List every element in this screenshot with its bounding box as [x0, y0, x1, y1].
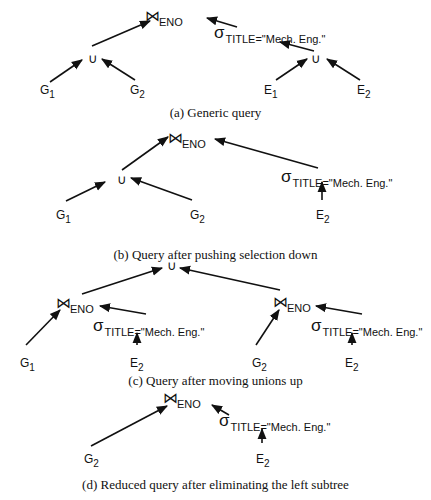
fragment-index: 2 — [93, 458, 99, 469]
relation-fragment: E2 — [345, 357, 359, 373]
join-attribute: ENO — [287, 302, 311, 314]
selection-operator: σTITLE="Mech. Eng." — [219, 412, 330, 429]
fragment-index: 1 — [29, 362, 35, 373]
fragment-name: G — [190, 208, 199, 222]
edge-arrow — [66, 182, 105, 201]
sigma-icon: σ — [219, 411, 230, 430]
edge-arrow — [316, 306, 362, 314]
fragment-name: E — [264, 83, 272, 97]
relation-fragment: G1 — [56, 209, 71, 225]
fragment-index: 2 — [324, 214, 330, 225]
fragment-name: E — [316, 208, 324, 222]
selection-condition: TITLE="Mech. Eng." — [323, 326, 423, 338]
fragment-name: G — [56, 208, 65, 222]
bowtie-join-icon: ⋈ — [168, 129, 182, 146]
relation-fragment: G2 — [190, 209, 205, 225]
join-attribute: ENO — [70, 303, 94, 315]
edge-arrow — [122, 137, 168, 170]
bowtie-join-icon: ⋈ — [273, 293, 287, 310]
selection-condition: TITLE="Mech. Eng." — [231, 421, 331, 433]
panel-caption: (b) Query after pushing selection down — [0, 247, 431, 263]
relation-fragment: E2 — [256, 453, 270, 469]
edge-arrow — [92, 21, 150, 46]
edge-arrow — [327, 59, 360, 80]
fragment-index: 2 — [199, 214, 205, 225]
relation-fragment: E1 — [264, 84, 278, 100]
fragment-name: E — [357, 83, 365, 97]
relation-fragment: G1 — [40, 84, 55, 100]
fragment-index: 2 — [264, 458, 270, 469]
fragment-name: E — [345, 356, 353, 370]
edge-arrow — [256, 310, 279, 345]
bowtie-join-icon: ⋈ — [145, 7, 159, 24]
bowtie-join-icon: ⋈ — [56, 294, 70, 311]
fragment-index: 1 — [49, 89, 55, 100]
fragment-index: 2 — [139, 89, 145, 100]
relation-fragment: G1 — [20, 357, 35, 373]
relation-fragment: G2 — [84, 453, 99, 469]
sigma-icon: σ — [281, 167, 292, 186]
join-operator: ⋈ENO — [56, 295, 94, 310]
edge-arrow — [50, 60, 82, 82]
join-operator: ⋈ENO — [168, 130, 206, 145]
union-operator: ∪ — [311, 52, 321, 65]
fragment-index: 1 — [65, 214, 71, 225]
join-attribute: ENO — [182, 138, 206, 150]
fragment-name: G — [252, 356, 261, 370]
edge-arrow — [215, 139, 318, 168]
selection-operator: σTITLE="Mech. Eng." — [281, 168, 392, 185]
bowtie-join-icon: ⋈ — [163, 389, 177, 406]
selection-condition: TITLE="Mech. Eng." — [105, 326, 205, 338]
sigma-icon: σ — [311, 316, 322, 335]
union-operator: ∪ — [167, 259, 177, 272]
fragment-name: G — [40, 83, 49, 97]
fragment-name: G — [20, 356, 29, 370]
fragment-index: 2 — [353, 362, 359, 373]
relation-fragment: E2 — [130, 357, 144, 373]
fragment-name: E — [130, 356, 138, 370]
panel-caption: (a) Generic query — [0, 105, 431, 121]
edge-arrow — [82, 268, 162, 294]
join-operator: ⋈ENO — [163, 390, 201, 405]
selection-operator: σTITLE="Mech. Eng." — [93, 317, 204, 334]
edge-arrow — [91, 406, 167, 446]
query-tree-figure: ⋈ENO∪∪σTITLE="Mech. Eng."G1G2E1E2(a) Gen… — [0, 0, 431, 500]
edge-arrow — [26, 310, 60, 345]
sigma-icon: σ — [93, 316, 104, 335]
fragment-name: G — [84, 452, 93, 466]
edge-arrow — [180, 268, 280, 290]
fragment-index: 2 — [365, 89, 371, 100]
edge-arrow — [100, 306, 146, 314]
join-operator: ⋈ENO — [145, 8, 183, 23]
sigma-icon: σ — [214, 23, 225, 42]
edge-arrow — [102, 59, 135, 80]
panel-caption: (d) Reduced query after eliminating the … — [0, 477, 431, 493]
union-operator: ∪ — [88, 52, 98, 65]
edge-arrow — [276, 59, 307, 80]
join-attribute: ENO — [177, 398, 201, 410]
relation-fragment: G2 — [252, 357, 267, 373]
join-operator: ⋈ENO — [273, 294, 311, 309]
panel-caption: (c) Query after moving unions up — [0, 373, 431, 389]
join-attribute: ENO — [159, 16, 183, 28]
relation-fragment: E2 — [316, 209, 330, 225]
union-operator: ∪ — [117, 173, 127, 186]
fragment-index: 2 — [261, 362, 267, 373]
fragment-name: E — [256, 452, 264, 466]
selection-condition: TITLE="Mech. Eng." — [293, 177, 393, 189]
fragment-index: 2 — [138, 362, 144, 373]
edge-arrow — [131, 178, 192, 200]
selection-condition: TITLE="Mech. Eng." — [226, 33, 326, 45]
fragment-name: G — [130, 83, 139, 97]
fragment-index: 1 — [272, 89, 278, 100]
selection-operator: σTITLE="Mech. Eng." — [214, 24, 325, 41]
relation-fragment: G2 — [130, 84, 145, 100]
relation-fragment: E2 — [357, 84, 371, 100]
selection-operator: σTITLE="Mech. Eng." — [311, 317, 422, 334]
